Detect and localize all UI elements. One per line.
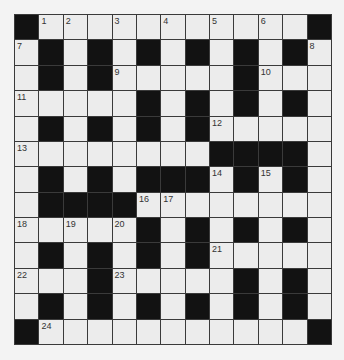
- crossword-cell[interactable]: 23: [113, 269, 136, 293]
- crossword-cell[interactable]: [234, 117, 257, 141]
- crossword-cell[interactable]: [308, 243, 331, 267]
- crossword-cell[interactable]: [161, 40, 184, 64]
- crossword-cell[interactable]: 19: [64, 218, 87, 242]
- crossword-cell[interactable]: 17: [161, 193, 184, 217]
- crossword-cell[interactable]: [15, 117, 38, 141]
- crossword-cell[interactable]: 14: [210, 167, 233, 191]
- crossword-cell[interactable]: 10: [259, 66, 282, 90]
- crossword-cell[interactable]: [259, 117, 282, 141]
- crossword-cell[interactable]: 4: [161, 15, 184, 39]
- crossword-cell[interactable]: [161, 243, 184, 267]
- crossword-cell[interactable]: [113, 243, 136, 267]
- crossword-cell[interactable]: [161, 294, 184, 318]
- crossword-cell[interactable]: [283, 243, 306, 267]
- crossword-cell[interactable]: 22: [15, 269, 38, 293]
- crossword-cell[interactable]: [259, 193, 282, 217]
- crossword-cell[interactable]: [64, 117, 87, 141]
- crossword-cell[interactable]: 11: [15, 91, 38, 115]
- crossword-cell[interactable]: [186, 320, 209, 344]
- crossword-cell[interactable]: 8: [308, 40, 331, 64]
- crossword-cell[interactable]: [137, 15, 160, 39]
- crossword-cell[interactable]: [308, 167, 331, 191]
- crossword-cell[interactable]: [137, 142, 160, 166]
- crossword-cell[interactable]: [234, 15, 257, 39]
- crossword-cell[interactable]: [88, 320, 111, 344]
- crossword-cell[interactable]: [161, 117, 184, 141]
- crossword-cell[interactable]: [259, 91, 282, 115]
- crossword-cell[interactable]: [64, 294, 87, 318]
- crossword-cell[interactable]: [137, 269, 160, 293]
- crossword-cell[interactable]: [210, 269, 233, 293]
- crossword-cell[interactable]: [210, 218, 233, 242]
- crossword-cell[interactable]: [283, 66, 306, 90]
- crossword-cell[interactable]: [39, 269, 62, 293]
- crossword-cell[interactable]: [15, 66, 38, 90]
- crossword-cell[interactable]: 2: [64, 15, 87, 39]
- crossword-cell[interactable]: [308, 66, 331, 90]
- crossword-cell[interactable]: [308, 91, 331, 115]
- crossword-cell[interactable]: [88, 142, 111, 166]
- crossword-cell[interactable]: 9: [113, 66, 136, 90]
- crossword-cell[interactable]: [308, 193, 331, 217]
- crossword-cell[interactable]: [210, 193, 233, 217]
- crossword-cell[interactable]: [39, 91, 62, 115]
- crossword-cell[interactable]: [283, 15, 306, 39]
- crossword-cell[interactable]: [161, 269, 184, 293]
- crossword-cell[interactable]: [283, 320, 306, 344]
- crossword-cell[interactable]: [15, 294, 38, 318]
- crossword-cell[interactable]: [88, 218, 111, 242]
- crossword-cell[interactable]: 3: [113, 15, 136, 39]
- crossword-cell[interactable]: [113, 40, 136, 64]
- crossword-cell[interactable]: [113, 142, 136, 166]
- crossword-cell[interactable]: [234, 193, 257, 217]
- crossword-cell[interactable]: [64, 269, 87, 293]
- crossword-cell[interactable]: [161, 218, 184, 242]
- crossword-cell[interactable]: [113, 320, 136, 344]
- crossword-cell[interactable]: [39, 218, 62, 242]
- crossword-cell[interactable]: 21: [210, 243, 233, 267]
- crossword-cell[interactable]: [234, 243, 257, 267]
- crossword-cell[interactable]: [283, 117, 306, 141]
- crossword-cell[interactable]: [186, 15, 209, 39]
- crossword-cell[interactable]: [161, 66, 184, 90]
- crossword-cell[interactable]: [64, 167, 87, 191]
- crossword-cell[interactable]: [113, 91, 136, 115]
- crossword-cell[interactable]: [210, 91, 233, 115]
- crossword-cell[interactable]: [259, 269, 282, 293]
- crossword-cell[interactable]: [259, 218, 282, 242]
- crossword-cell[interactable]: [186, 193, 209, 217]
- crossword-cell[interactable]: [308, 142, 331, 166]
- crossword-cell[interactable]: [210, 320, 233, 344]
- crossword-cell[interactable]: [259, 294, 282, 318]
- crossword-cell[interactable]: [137, 320, 160, 344]
- crossword-cell[interactable]: [113, 117, 136, 141]
- crossword-cell[interactable]: [308, 218, 331, 242]
- crossword-cell[interactable]: [210, 66, 233, 90]
- crossword-cell[interactable]: [64, 66, 87, 90]
- crossword-cell[interactable]: [15, 193, 38, 217]
- crossword-cell[interactable]: [308, 269, 331, 293]
- crossword-cell[interactable]: 5: [210, 15, 233, 39]
- crossword-cell[interactable]: 12: [210, 117, 233, 141]
- crossword-cell[interactable]: 20: [113, 218, 136, 242]
- crossword-cell[interactable]: [161, 91, 184, 115]
- crossword-cell[interactable]: 1: [39, 15, 62, 39]
- crossword-cell[interactable]: [308, 117, 331, 141]
- crossword-cell[interactable]: [186, 142, 209, 166]
- crossword-cell[interactable]: [234, 320, 257, 344]
- crossword-cell[interactable]: [64, 91, 87, 115]
- crossword-cell[interactable]: [161, 320, 184, 344]
- crossword-cell[interactable]: [64, 243, 87, 267]
- crossword-cell[interactable]: [259, 243, 282, 267]
- crossword-cell[interactable]: [210, 294, 233, 318]
- crossword-cell[interactable]: 6: [259, 15, 282, 39]
- crossword-cell[interactable]: 15: [259, 167, 282, 191]
- crossword-cell[interactable]: [186, 269, 209, 293]
- crossword-cell[interactable]: [64, 142, 87, 166]
- crossword-cell[interactable]: [88, 91, 111, 115]
- crossword-cell[interactable]: [186, 66, 209, 90]
- crossword-cell[interactable]: [283, 193, 306, 217]
- crossword-cell[interactable]: [161, 142, 184, 166]
- crossword-cell[interactable]: [39, 142, 62, 166]
- crossword-cell[interactable]: [15, 167, 38, 191]
